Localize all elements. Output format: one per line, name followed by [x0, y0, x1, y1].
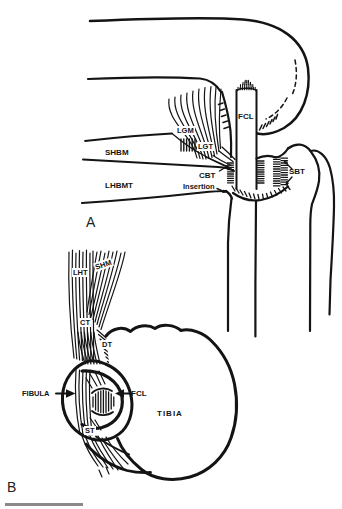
- panel-a-tag: A: [86, 215, 95, 230]
- panel-b-tag: B: [7, 480, 16, 495]
- label-lht: LHT: [72, 268, 89, 277]
- panel-b-art: [56, 250, 237, 479]
- label-cbt: CBT: [199, 171, 215, 180]
- label-dt: DT: [101, 340, 113, 349]
- label-shbm: SHBM: [105, 148, 129, 157]
- sbt-lower-arrow: [285, 177, 292, 185]
- line-art: [0, 0, 342, 509]
- scale-bar: [5, 503, 83, 506]
- label-tibia: TIBIA: [157, 409, 183, 418]
- label-lhbmt: LHBMT: [105, 181, 133, 190]
- anatomical-figure: LGM LGT SHBM LHBMT FCL CBT Insertion SBT…: [0, 0, 342, 509]
- label-st: ST: [84, 426, 96, 435]
- label-fcl-b: FCL: [131, 389, 147, 398]
- label-ct: CT: [79, 318, 91, 327]
- fcl-ligament-band: [237, 80, 257, 190]
- label-fibula: FIBULA: [22, 389, 50, 398]
- label-sbt: SBT: [289, 167, 305, 176]
- ct-tendon-fibers: [78, 332, 100, 364]
- label-fcl-a: FCL: [238, 112, 254, 121]
- fcl-insertion-site: [92, 389, 114, 416]
- label-insertion: Insertion: [183, 182, 215, 191]
- fibula-arrow: [56, 389, 76, 397]
- label-lgm: LGM: [176, 126, 195, 135]
- label-lgt: LGT: [197, 142, 214, 151]
